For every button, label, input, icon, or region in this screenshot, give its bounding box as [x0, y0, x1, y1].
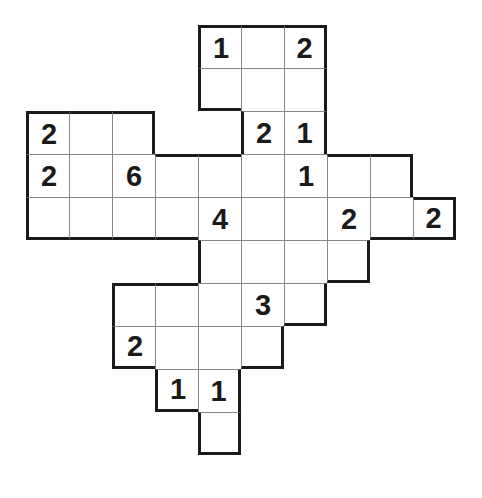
clue-cell: 2 [26, 111, 69, 154]
clue-cell: 1 [198, 369, 241, 412]
empty-cell[interactable] [112, 111, 155, 154]
empty-cell[interactable] [198, 326, 241, 369]
empty-cell[interactable] [241, 68, 284, 111]
empty-cell[interactable] [69, 111, 112, 154]
clue-cell: 1 [284, 111, 327, 154]
clue-cell: 2 [112, 326, 155, 369]
empty-cell[interactable] [241, 154, 284, 197]
puzzle-board: 122212614223211 [0, 0, 482, 498]
empty-cell[interactable] [198, 412, 241, 455]
empty-cell[interactable] [284, 240, 327, 283]
empty-cell[interactable] [155, 326, 198, 369]
empty-cell[interactable] [155, 197, 198, 240]
empty-cell[interactable] [198, 68, 241, 111]
empty-cell[interactable] [284, 68, 327, 111]
clue-cell: 2 [327, 197, 370, 240]
empty-cell[interactable] [241, 25, 284, 68]
empty-cell[interactable] [155, 154, 198, 197]
clue-cell: 1 [284, 154, 327, 197]
empty-cell[interactable] [370, 154, 413, 197]
empty-cell[interactable] [69, 197, 112, 240]
clue-cell: 2 [241, 111, 284, 154]
empty-cell[interactable] [241, 326, 284, 369]
empty-cell[interactable] [155, 283, 198, 326]
empty-cell[interactable] [198, 154, 241, 197]
clue-cell: 6 [112, 154, 155, 197]
empty-cell[interactable] [284, 283, 327, 326]
empty-cell[interactable] [112, 197, 155, 240]
empty-cell[interactable] [327, 240, 370, 283]
clue-cell: 4 [198, 197, 241, 240]
empty-cell[interactable] [327, 154, 370, 197]
clue-cell: 2 [284, 25, 327, 68]
clue-cell: 2 [26, 154, 69, 197]
empty-cell[interactable] [198, 283, 241, 326]
clue-cell: 2 [413, 197, 456, 240]
empty-cell[interactable] [241, 240, 284, 283]
empty-cell[interactable] [198, 240, 241, 283]
empty-cell[interactable] [241, 197, 284, 240]
clue-cell: 1 [198, 25, 241, 68]
empty-cell[interactable] [112, 283, 155, 326]
empty-cell[interactable] [370, 197, 413, 240]
empty-cell[interactable] [26, 197, 69, 240]
empty-cell[interactable] [284, 197, 327, 240]
clue-cell: 1 [155, 369, 198, 412]
clue-cell: 3 [241, 283, 284, 326]
empty-cell[interactable] [69, 154, 112, 197]
